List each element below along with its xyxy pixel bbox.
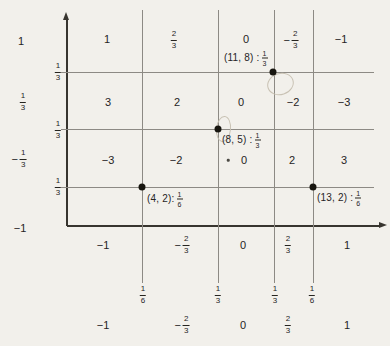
cell-r5c4: 23 (285, 315, 291, 335)
xtick-x11: 13 (272, 285, 278, 305)
vline-x-13 (313, 10, 314, 283)
cell-r3c1: −3 (102, 155, 115, 166)
cell-r2c1: 3 (105, 97, 111, 108)
x-axis (67, 225, 381, 227)
point-probability-fraction: 16 (355, 190, 361, 207)
ytick-y5: 13 (55, 120, 61, 140)
joint-pmf-figure: (11, 8) :13 (8, 5) :13 (4, 2):16 (13, 2)… (0, 0, 390, 346)
cell-r1c5: −1 (335, 34, 348, 45)
cell-r3c4: 2 (289, 155, 295, 166)
cell-r5c2: −23 (175, 315, 190, 335)
cell-r2c4: −2 (287, 97, 300, 108)
cell-r5c5: 1 (344, 320, 350, 331)
point-label-text: (4, 2): (147, 193, 175, 204)
point-label-8-5: (8, 5) :13 (222, 132, 261, 149)
left-label-1: 1 (18, 36, 24, 47)
cell-r2c3: 0 (238, 97, 244, 108)
point-label-13-2: (13, 2) :16 (317, 190, 361, 207)
xtick-x4: 16 (140, 285, 146, 305)
vline-x-4 (142, 10, 143, 283)
cell-r1c4: −23 (284, 30, 299, 50)
cell-r2c5: −3 (338, 97, 351, 108)
hline-y-2 (61, 187, 374, 188)
cell-r2c2: 2 (174, 97, 180, 108)
point-probability-fraction: 13 (255, 132, 261, 149)
point-label-4-2: (4, 2):16 (147, 191, 183, 208)
xtick-x8: 13 (215, 285, 221, 305)
point-13-2 (310, 184, 317, 191)
ytick-y8: 13 (55, 62, 61, 82)
stray-mark (227, 159, 230, 162)
hline-y-8 (61, 72, 374, 73)
point-probability-fraction: 16 (177, 191, 183, 208)
cell-r3c5: 3 (341, 155, 347, 166)
cell-r4c2: −23 (175, 235, 190, 255)
point-11-8 (270, 69, 277, 76)
y-axis (66, 19, 68, 226)
left-label-neg-1: −1 (14, 223, 27, 234)
point-4-2 (139, 184, 146, 191)
cell-r3c3: 0 (241, 155, 247, 166)
vline-x-11 (274, 10, 275, 283)
point-label-text: (11, 8) : (224, 52, 260, 63)
cell-r3c2: −2 (170, 155, 183, 166)
vline-x-8 (218, 10, 219, 283)
ytick-y2: 13 (55, 177, 61, 197)
left-label-neg-one-third: −13 (12, 149, 27, 169)
x-axis-arrowhead-icon (379, 222, 387, 228)
xtick-x13: 16 (309, 285, 315, 305)
point-probability-fraction: 13 (262, 50, 268, 67)
cell-r4c3: 0 (240, 240, 246, 251)
cell-r5c3: 0 (240, 320, 246, 331)
point-label-text: (13, 2) : (317, 192, 353, 203)
cell-r4c1: −1 (97, 240, 110, 251)
point-label-text: (8, 5) : (222, 134, 253, 145)
cell-r5c1: −1 (97, 320, 110, 331)
point-label-11-8: (11, 8) :13 (224, 50, 268, 67)
cell-r4c4: 23 (285, 235, 291, 255)
point-8-5 (215, 126, 222, 133)
cell-r1c2: 23 (171, 30, 177, 50)
cell-r1c1: 1 (104, 34, 110, 45)
cell-r1c3: 0 (243, 34, 249, 45)
cell-r4c5: 1 (344, 240, 350, 251)
left-label-one-third: 13 (20, 92, 26, 112)
